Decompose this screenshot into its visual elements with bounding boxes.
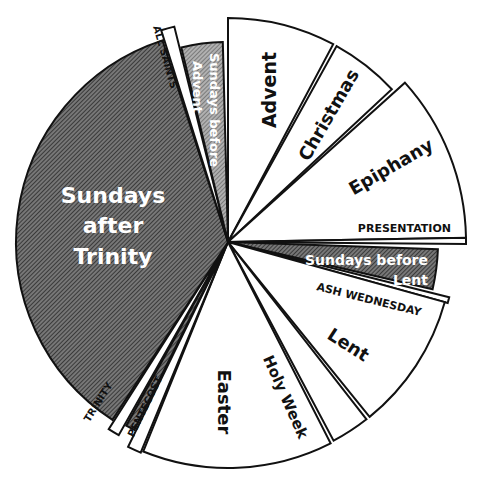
label-sundays-before-advent-2: Advent [190, 61, 205, 113]
liturgical-year-pie-chart: Advent Christmas Epiphany PRESENTATION S… [0, 0, 478, 490]
label-easter: Easter [214, 370, 235, 435]
label-presentation: PRESENTATION [358, 222, 451, 235]
pie-slices [16, 18, 466, 468]
label-sundays-after-trinity-1: Sundays [61, 183, 166, 208]
label-sundays-after-trinity-3: Trinity [73, 244, 152, 269]
label-sundays-before-advent-1: Sundays before [207, 53, 222, 167]
label-advent: Advent [258, 52, 280, 128]
label-sundays-before-lent-2: Lent [393, 272, 428, 288]
label-sundays-before-lent-1: Sundays before [305, 252, 428, 268]
label-sundays-after-trinity-2: after [83, 213, 144, 238]
